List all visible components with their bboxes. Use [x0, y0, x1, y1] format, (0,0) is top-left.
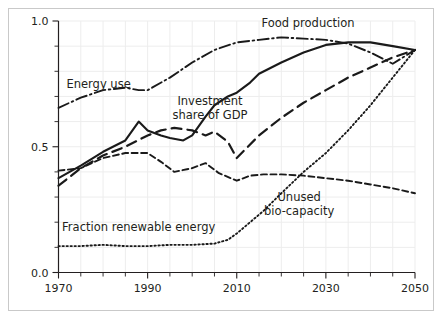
y-tick-label: 0.5: [31, 141, 49, 154]
series-label-line: Unused: [277, 190, 320, 204]
series-label-line: Energy use: [66, 77, 130, 91]
x-tick-label: 2030: [312, 282, 340, 295]
x-tick-label: 1990: [134, 282, 162, 295]
y-tick-label: 1.0: [31, 15, 49, 28]
line-chart: 0.00.51.019701990201020302050 Food produ…: [0, 0, 442, 319]
tick-labels: 0.00.51.019701990201020302050: [31, 15, 429, 295]
series-label-unused-bio-capacity: Unusedbio-capacity: [264, 190, 335, 218]
chart-figure: 0.00.51.019701990201020302050 Food produ…: [0, 0, 442, 319]
series-label-investment-share-of-gdp: Investmentshare of GDP: [173, 94, 248, 122]
series-label-fraction-renewable-energy: Fraction renewable energy: [62, 220, 215, 234]
series-label-food-production: Food production: [262, 16, 355, 30]
series-label-line: Food production: [262, 16, 355, 30]
series-label-line: Investment: [177, 94, 243, 108]
x-tick-label: 1970: [45, 282, 73, 295]
y-tick-label: 0.0: [31, 267, 49, 280]
x-tick-label: 2010: [223, 282, 251, 295]
series-label-line: Fraction renewable energy: [62, 220, 215, 234]
x-tick-label: 2050: [401, 282, 429, 295]
series-label-line: bio-capacity: [264, 204, 335, 218]
series-label-energy-use: Energy use: [66, 77, 130, 91]
series-label-line: share of GDP: [173, 108, 248, 122]
